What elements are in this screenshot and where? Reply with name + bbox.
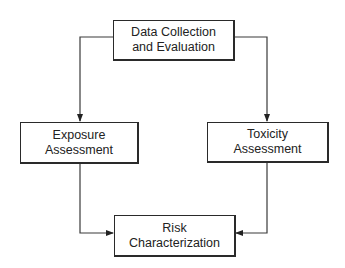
edge-data-to-toxicity (234, 37, 267, 121)
node-exposure-assessment: Exposure Assessment (20, 122, 139, 164)
node-label-line: Assessment (233, 142, 301, 157)
node-toxicity-assessment: Toxicity Assessment (207, 122, 329, 163)
edge-exposure-to-risk (80, 163, 113, 233)
node-risk-characterization: Risk Characterization (114, 215, 236, 257)
node-label-line: Exposure (53, 128, 106, 143)
node-label-line: and Evaluation (132, 40, 215, 55)
node-data-collection: Data Collection and Evaluation (113, 20, 235, 61)
node-label-line: Risk (162, 221, 186, 236)
node-label-line: Data Collection (131, 25, 216, 40)
node-label-line: Toxicity (247, 127, 288, 142)
node-label-line: Characterization (129, 236, 220, 251)
node-label-line: Assessment (45, 143, 113, 158)
risk-assessment-diagram: Data Collection and Evaluation Exposure … (0, 0, 345, 268)
edge-data-to-exposure (80, 37, 113, 121)
edge-toxicity-to-risk (236, 162, 267, 233)
